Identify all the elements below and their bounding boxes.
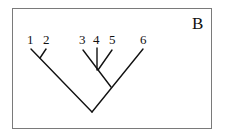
cladogram-branches (0, 0, 225, 140)
